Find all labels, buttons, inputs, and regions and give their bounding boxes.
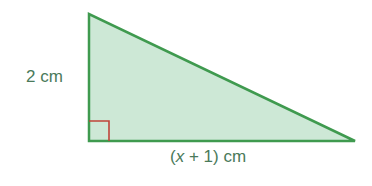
base-label: (x + 1) cm <box>170 147 246 167</box>
height-label: 2 cm <box>26 67 63 87</box>
base-label-suffix: + 1) cm <box>184 147 246 166</box>
base-label-variable: x <box>176 147 185 166</box>
diagram-canvas: 2 cm (x + 1) cm <box>0 0 372 186</box>
right-triangle <box>89 14 355 141</box>
